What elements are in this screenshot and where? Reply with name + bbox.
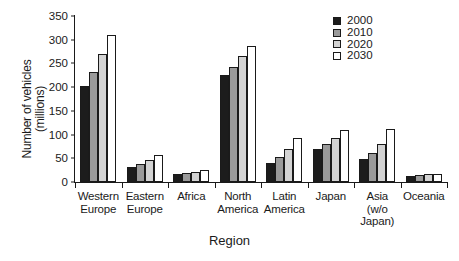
bar (80, 86, 89, 182)
bar (331, 138, 340, 182)
bar (154, 155, 163, 182)
bar (266, 163, 275, 182)
bar (200, 170, 209, 182)
bar (368, 153, 377, 182)
x-axis-category-label: Oceania (395, 190, 454, 203)
legend-item: 2030 (333, 50, 373, 62)
legend-label: 2010 (347, 27, 373, 39)
legend-label: 2030 (347, 50, 373, 62)
bar-group (168, 16, 215, 182)
bar (182, 173, 191, 182)
x-axis-tick-mark (447, 183, 448, 188)
bar (107, 35, 116, 183)
y-axis-title: Number of vehicles (millions) (21, 24, 47, 194)
bar-group (122, 16, 169, 182)
bar (238, 56, 247, 182)
x-axis-tick-mark (75, 183, 76, 188)
bar (145, 160, 154, 182)
bar (433, 174, 442, 182)
bar (229, 67, 238, 182)
x-axis-category-label-line: America (255, 203, 314, 216)
x-axis-category-label-line: Oceania (395, 190, 454, 203)
x-axis-tick-mark (215, 183, 216, 188)
x-axis-category-label-line: (w/o (348, 203, 407, 216)
bar (127, 167, 136, 182)
bar (415, 175, 424, 182)
x-axis-tick-mark (401, 183, 402, 188)
bar (406, 176, 415, 182)
bar-group (261, 16, 308, 182)
x-axis-tick-mark (122, 183, 123, 188)
bar (359, 159, 368, 182)
bar (220, 75, 229, 182)
legend-item: 2010 (333, 27, 373, 39)
bar (89, 72, 98, 182)
bar (340, 130, 349, 182)
bar (136, 164, 145, 182)
x-axis-title: Region (0, 233, 459, 248)
legend-swatch-icon (333, 17, 341, 25)
x-axis-category-label-line: Europe (116, 203, 175, 216)
legend-swatch-icon (333, 52, 341, 60)
bar-group (215, 16, 262, 182)
vehicles-by-region-bar-chart: Number of vehicles (millions) 0501001502… (0, 0, 459, 261)
x-axis-tick-mark (308, 183, 309, 188)
plot-area: 050100150200250300350 (75, 16, 447, 182)
x-axis-tick-mark (168, 183, 169, 188)
bar (247, 46, 256, 182)
legend: 2000201020202030 (333, 15, 373, 62)
bar (322, 144, 331, 182)
legend-swatch-icon (333, 40, 341, 48)
bar (173, 174, 182, 182)
bar-group (401, 16, 448, 182)
bar (313, 149, 322, 182)
bar-group (75, 16, 122, 182)
x-axis-tick-mark (261, 183, 262, 188)
legend-swatch-icon (333, 29, 341, 37)
bar (424, 174, 433, 182)
bar (191, 172, 200, 182)
y-axis-title-line-2: (millions) (34, 24, 47, 194)
bar (275, 157, 284, 182)
bar (377, 144, 386, 182)
bar (98, 54, 107, 182)
x-axis-category-label-line: Japan) (348, 215, 407, 228)
x-axis-tick-mark (354, 183, 355, 188)
bar (293, 138, 302, 182)
bar (284, 149, 293, 182)
bar (386, 129, 395, 182)
